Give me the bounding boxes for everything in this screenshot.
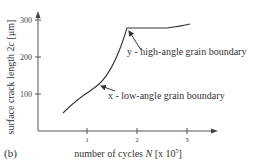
y-tick-300: 300 bbox=[20, 16, 32, 25]
y-tick-200: 200 bbox=[20, 53, 32, 62]
annotation-low-angle: x - low-angle grain boundary bbox=[108, 90, 225, 101]
annotation-high-angle: y - high-angle grain boundary bbox=[127, 46, 246, 57]
crack-length-chart: 100 200 300 1 2 3 x - low-angle grain bo… bbox=[0, 0, 255, 163]
x-ticks: 1 2 3 bbox=[85, 128, 189, 144]
y-axis-arrow-icon bbox=[36, 11, 41, 18]
x-axis-label: number of cycles N [x 105] bbox=[74, 148, 182, 159]
y-axis-label: surface crack length 2c [μm] bbox=[5, 20, 16, 135]
y-tick-100: 100 bbox=[20, 90, 32, 99]
x-tick-1: 1 bbox=[85, 136, 89, 144]
x-tick-3: 3 bbox=[185, 136, 189, 144]
x-axis-arrow-icon bbox=[211, 129, 218, 134]
x-tick-2: 2 bbox=[135, 136, 139, 144]
panel-label: (b) bbox=[4, 147, 17, 160]
